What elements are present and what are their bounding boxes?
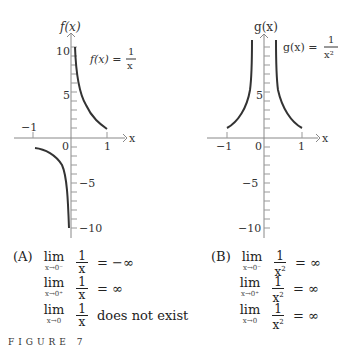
limit-b-row-1: (B) limx→0⁻ 1x2 = ∞ — [211, 250, 321, 279]
limit-result: = ∞ — [97, 276, 123, 302]
lim-operator: limx→0⁻ — [237, 250, 267, 273]
fraction: 1x — [73, 276, 91, 302]
limit-result: = ∞ — [293, 276, 319, 302]
right-formula-den: x² — [324, 49, 334, 60]
right-curve-left — [227, 40, 252, 128]
limit-result: = ∞ — [293, 303, 319, 329]
limit-b-tag: (B) — [211, 250, 237, 264]
right-tick-label-m10: −10 — [238, 222, 261, 235]
left-tick-label-m10: −10 — [79, 222, 102, 235]
fraction: 1x — [73, 303, 91, 329]
right-x-axis-label: x — [322, 132, 329, 145]
limit-result: = ∞ — [295, 250, 321, 276]
limit-a-tag: (A) — [13, 250, 39, 264]
right-formula-num: 1 — [328, 34, 334, 45]
left-formula-lhs: f(x) = — [89, 53, 122, 66]
right-tick-label-m5: −5 — [242, 177, 258, 190]
lim-operator: limx→0⁻ — [39, 250, 69, 273]
left-formula-den: x — [127, 60, 133, 71]
left-tick-label-m1: −1 — [21, 121, 37, 134]
fraction: 1x2 — [269, 303, 287, 332]
figure-caption: FIGURE 7 — [8, 337, 87, 347]
left-curve-negative — [35, 148, 69, 228]
left-tick-label-5: 5 — [63, 89, 70, 102]
left-formula-num: 1 — [128, 46, 134, 57]
left-x-axis-label: x — [129, 132, 136, 145]
lim-operator: limx→0⁺ — [235, 276, 265, 299]
left-tick-label-0: 0 — [62, 140, 69, 153]
lim-operator: limx→0 — [235, 303, 265, 326]
right-tick-label-0: 0 — [255, 140, 262, 153]
limit-b-row-2: limx→0⁺ 1x2 = ∞ — [235, 276, 319, 305]
limit-result: does not exist — [97, 303, 188, 329]
right-plot: g(x) x 5 −5 −10 −1 0 1 g(x) = 1 x² — [207, 20, 338, 238]
left-tick-label-1: 1 — [104, 140, 111, 153]
left-y-axis-label: f(x) — [59, 20, 81, 34]
fraction: 1x — [73, 250, 91, 276]
limit-a-row-1: (A) limx→0⁻ 1x = −∞ — [13, 250, 134, 276]
right-tick-label-1: 1 — [298, 140, 305, 153]
left-tick-label-m5: −5 — [79, 177, 95, 190]
limit-b-row-3: limx→0 1x2 = ∞ — [235, 303, 319, 332]
lim-operator: limx→0 — [39, 303, 69, 326]
right-y-axis-label: g(x) — [254, 20, 278, 34]
left-tick-label-10: 10 — [56, 45, 70, 58]
lim-operator: limx→0⁺ — [39, 276, 69, 299]
right-tick-label-m1: −1 — [216, 140, 232, 153]
fraction: 1x2 — [269, 276, 287, 305]
right-tick-label-5: 5 — [256, 89, 263, 102]
limit-result: = −∞ — [97, 250, 134, 276]
limit-a-row-3: limx→0 1x does not exist — [39, 303, 188, 329]
left-plot: f(x) x 10 5 −5 −10 −1 0 1 f(x) = 1 x — [14, 20, 136, 238]
limit-a-row-2: limx→0⁺ 1x = ∞ — [39, 276, 123, 302]
right-formula-lhs: g(x) = — [283, 41, 318, 54]
